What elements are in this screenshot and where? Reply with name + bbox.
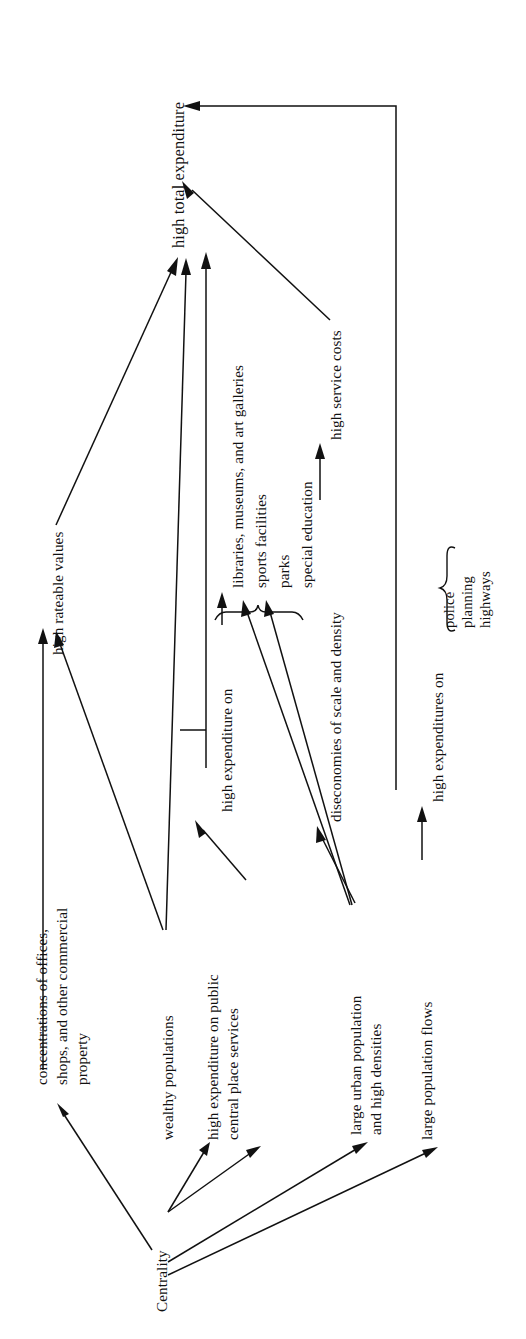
node-label: sports facilities <box>252 494 269 588</box>
node-label: libraries, museums, and art galleries <box>229 365 246 588</box>
node-service-item-libraries: libraries, museums, and art galleries <box>228 365 247 588</box>
node-service-item-special-education: special education <box>297 481 316 588</box>
node-label-line1: large urban population <box>346 996 366 1135</box>
node-brace-item-planning: planning <box>458 576 477 628</box>
node-diseconomies-of-scale-and-density: diseconomies of scale and density <box>326 612 345 822</box>
node-label: high total expenditure <box>169 102 188 248</box>
node-wealthy-populations: wealthy populations <box>158 1015 177 1140</box>
node-brace-item-highways: highways <box>476 571 495 628</box>
node-label: high expenditure on <box>218 689 235 812</box>
node-high-expenditure-on: high expenditure on <box>217 689 236 812</box>
edge-rateable-to-total <box>56 257 178 525</box>
edge-centrality-to-pop-flows <box>168 1147 438 1275</box>
node-label: wealthy populations <box>159 1015 176 1140</box>
edge-wealthy-to-total <box>166 258 191 930</box>
node-high-total-expenditure: high total expenditure <box>168 102 189 248</box>
node-label: large population flows <box>418 1001 435 1140</box>
node-large-population-flows: large population flows <box>417 1001 436 1140</box>
edge-public-central-to-highexp <box>195 820 246 880</box>
node-high-rateable-values: high rateable values <box>48 532 67 655</box>
edge-wealthy-to-rateable <box>54 631 163 930</box>
node-label-line3: property <box>72 908 92 1085</box>
node-high-expenditures-on: high expenditures on <box>428 673 447 802</box>
node-high-service-costs: high service costs <box>326 330 345 440</box>
edge-highexp-to-libraries <box>217 592 227 625</box>
edge-servicecosts-to-total <box>182 181 330 320</box>
node-label: highways <box>477 571 493 628</box>
node-public-central-place-services: high expenditure on public central place… <box>203 974 243 1140</box>
edge-highexps-to-total <box>183 101 396 790</box>
node-service-item-sports: sports facilities <box>251 494 270 588</box>
node-label: high expenditures on <box>429 673 446 802</box>
edge-centrality-to-wealthy <box>168 1142 210 1212</box>
node-label-line2: and high densities <box>366 996 386 1135</box>
node-label: parks <box>275 555 292 588</box>
node-centrality: Centrality <box>152 1250 171 1312</box>
edge-centrality-to-concentrations <box>57 1103 152 1250</box>
node-concentrations-of-offices: concentrations of offices, shops, and ot… <box>32 908 91 1085</box>
node-large-urban-population: large urban population and high densitie… <box>346 996 386 1135</box>
edge-centrality-to-public-central <box>168 1146 261 1212</box>
edge-highexp-to-total <box>201 252 211 768</box>
node-label: high rateable values <box>49 532 66 655</box>
node-label: police <box>441 592 457 628</box>
node-label: planning <box>459 576 475 628</box>
node-label: diseconomies of scale and density <box>327 612 344 822</box>
edge-urbanpop-to-diseconomies <box>316 826 355 903</box>
node-label-line2: shops, and other commercial <box>52 908 72 1085</box>
node-label: special education <box>298 481 315 588</box>
edge-diseconomies-to-servicecosts <box>315 443 325 500</box>
node-label: high service costs <box>327 330 344 440</box>
brace-service-items <box>215 605 303 620</box>
diagram-canvas: high total expenditure high rateable val… <box>0 0 526 1339</box>
diagram-edges <box>0 0 526 1339</box>
node-service-item-parks: parks <box>274 555 293 588</box>
node-brace-item-police: police <box>440 592 459 628</box>
node-label-line1: concentrations of offices, <box>32 908 52 1085</box>
edge-popflows-to-highexps <box>417 806 427 860</box>
node-label-line2: central place services <box>223 974 243 1140</box>
edge-centrality-to-urban-pop <box>168 1142 368 1262</box>
node-label-line1: high expenditure on public <box>203 974 223 1140</box>
node-label: Centrality <box>153 1250 170 1312</box>
